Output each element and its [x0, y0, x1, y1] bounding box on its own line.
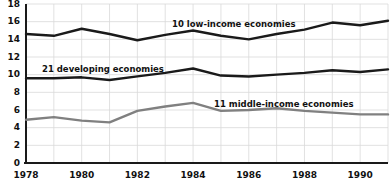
x-axis-tick-label: 1986	[229, 171, 269, 180]
y-axis-tick-label: 10	[0, 70, 20, 79]
y-axis-tick-label: 6	[0, 106, 20, 115]
series-label: 11 middle-income economies	[214, 100, 354, 109]
y-axis-tick-label: 0	[0, 159, 20, 168]
line-chart: 024681012141618 197819801982198419861988…	[0, 0, 391, 184]
y-axis-tick-label: 16	[0, 17, 20, 26]
x-axis-tick-label: 1980	[62, 171, 102, 180]
series-label: 21 developing economies	[42, 65, 164, 74]
y-axis-tick-label: 14	[0, 35, 20, 44]
y-axis-tick-label: 18	[0, 0, 20, 9]
x-axis-tick-label: 1982	[117, 171, 157, 180]
x-axis-tick-label: 1984	[173, 171, 213, 180]
x-axis-tick-label: 1988	[284, 171, 324, 180]
y-axis-tick-label: 4	[0, 123, 20, 132]
y-axis-tick-label: 12	[0, 53, 20, 62]
x-axis-tick-label: 1978	[6, 171, 46, 180]
y-axis-tick-label: 8	[0, 88, 20, 97]
x-axis-tick-label: 1990	[340, 171, 380, 180]
y-axis-tick-label: 2	[0, 141, 20, 150]
series-label: 10 low-income economies	[172, 20, 295, 29]
